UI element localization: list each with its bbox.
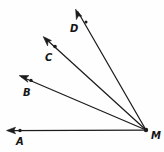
ray-mc-line — [46, 39, 146, 130]
ray-ma-line — [9, 130, 146, 131]
point-b-label: B — [23, 87, 31, 98]
point-a-dot — [18, 129, 21, 132]
ray-md: D — [70, 9, 146, 130]
vertex-m: M — [144, 128, 161, 141]
ray-md-line — [78, 12, 146, 130]
point-d-dot — [85, 21, 88, 24]
ray-mb: B — [19, 76, 146, 130]
point-c-label: C — [45, 52, 53, 63]
ray-ma: A — [7, 127, 147, 147]
vertex-m-dot — [144, 128, 148, 132]
ray-mc-arrowhead — [43, 37, 51, 46]
point-c-dot — [53, 45, 57, 49]
point-b-dot — [29, 79, 32, 82]
point-d-label: D — [70, 23, 78, 34]
ray-mb-line — [22, 77, 146, 130]
ray-diagram-canvas: A B C D M — [0, 0, 164, 152]
vertex-m-label: M — [151, 130, 161, 141]
geometry-figure: A B C D M — [0, 0, 164, 152]
point-a-label: A — [15, 136, 24, 147]
ray-mc: C — [43, 37, 146, 130]
